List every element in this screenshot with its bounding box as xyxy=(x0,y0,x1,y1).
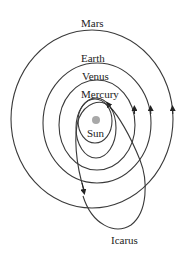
icarus-orbit-inner-segment xyxy=(76,102,110,190)
mars-label: Mars xyxy=(81,17,104,29)
sun-icon xyxy=(92,116,100,124)
sun-label: Sun xyxy=(87,127,105,139)
earth-label: Earth xyxy=(81,52,105,64)
orbit-diagram: Mars Earth Venus Mercury Sun Icarus xyxy=(0,0,183,257)
mercury-label: Mercury xyxy=(81,88,119,100)
icarus-label: Icarus xyxy=(111,234,138,246)
icarus-orbit xyxy=(83,107,145,229)
venus-label: Venus xyxy=(82,70,109,82)
